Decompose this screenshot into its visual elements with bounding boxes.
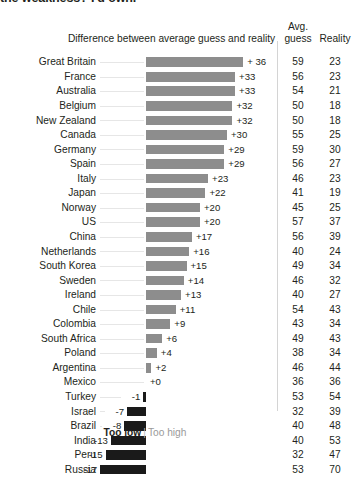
bar-value-label: -7 — [0, 406, 124, 417]
chart-row: South Korea+154934 — [0, 259, 356, 274]
chart-row: Australia+335421 — [0, 84, 356, 99]
country-label: Mexico — [0, 376, 96, 387]
reality-value: 23 — [317, 71, 353, 82]
reality-value: 44 — [317, 362, 353, 373]
avg-guess-value: 49 — [281, 333, 315, 344]
avg-guess-value: 59 — [281, 56, 315, 67]
avg-guess-value: 56 — [281, 158, 315, 169]
chart-row: Great Britain+ 365923 — [0, 55, 356, 70]
bar-value-label: +13 — [185, 289, 201, 300]
chart-row: China+175639 — [0, 230, 356, 245]
chart-bar — [146, 334, 162, 344]
chart-bar — [146, 145, 224, 155]
legend-too-low: Too low — [104, 427, 142, 438]
reality-value: 43 — [317, 333, 353, 344]
reality-value: 25 — [317, 129, 353, 140]
reality-value: 39 — [317, 231, 353, 242]
leader-line — [100, 310, 144, 311]
reality-value: 32 — [317, 275, 353, 286]
country-label: Chile — [0, 304, 96, 315]
avg-guess-value: 53 — [281, 464, 315, 475]
chart-bar — [146, 130, 227, 140]
avg-guess-value: 54 — [281, 85, 315, 96]
chart-row: Norway+204525 — [0, 201, 356, 216]
chart-row: Mexico+03636 — [0, 375, 356, 390]
leader-line — [100, 368, 144, 369]
chart-bar — [146, 290, 181, 300]
bar-value-label: +2 — [155, 362, 166, 373]
legend-too-high: Too high — [148, 427, 187, 438]
leader-line — [100, 339, 144, 340]
avg-guess-value: 45 — [281, 202, 315, 213]
chart-row: Sweden+144632 — [0, 273, 356, 288]
country-label: Netherlands — [0, 246, 96, 257]
bar-value-label: -1 — [0, 391, 140, 402]
chart-bar — [146, 86, 235, 96]
chart-bar — [146, 232, 192, 242]
leader-line — [100, 353, 144, 354]
chart-bar — [146, 217, 200, 227]
bar-value-label: +4 — [161, 347, 172, 358]
country-label: Colombia — [0, 318, 96, 329]
chart-row: Colombia+94334 — [0, 317, 356, 332]
chart-row: US+205737 — [0, 215, 356, 230]
difference-column-header: Difference between average guess and rea… — [68, 33, 273, 44]
chart-bar — [146, 116, 232, 126]
leader-line — [100, 62, 144, 63]
chart-bar — [146, 348, 157, 358]
avg-guess-value: 50 — [281, 115, 315, 126]
country-label: US — [0, 216, 96, 227]
avg-guess-value: 32 — [281, 406, 315, 417]
reality-value: 30 — [317, 144, 353, 155]
avg-guess-value: 40 — [281, 246, 315, 257]
avg-guess-value: 46 — [281, 275, 315, 286]
bar-value-label: +20 — [204, 202, 220, 213]
avg-guess-value: 46 — [281, 362, 315, 373]
bar-value-label: +6 — [166, 333, 177, 344]
country-label: Canada — [0, 129, 96, 140]
leader-line — [100, 382, 144, 383]
bar-value-label: +32 — [236, 100, 252, 111]
chart-bar — [146, 101, 232, 111]
chart-row: Ireland+134027 — [0, 288, 356, 303]
avg-guess-value: 32 — [281, 449, 315, 460]
reality-value: 36 — [317, 376, 353, 387]
chart-bar — [146, 319, 170, 329]
leader-line — [100, 280, 144, 281]
reality-value: 21 — [317, 85, 353, 96]
chart-bar — [146, 57, 243, 67]
chart-row: France+335623 — [0, 70, 356, 85]
chart-row: Spain+295627 — [0, 157, 356, 172]
avg-guess-value: 57 — [281, 216, 315, 227]
bar-value-label: +30 — [231, 129, 247, 140]
bar-value-label: +11 — [180, 304, 196, 315]
chart-row: Italy+234623 — [0, 171, 356, 186]
reality-value: 53 — [317, 435, 353, 446]
avg-guess-value: 49 — [281, 260, 315, 271]
bar-value-label: +32 — [236, 115, 252, 126]
country-label: Japan — [0, 187, 96, 198]
bar-value-label: +29 — [228, 158, 244, 169]
leader-line — [100, 106, 144, 107]
leader-line — [100, 77, 144, 78]
chart-bar — [127, 407, 146, 417]
avg-guess-column-header-line1: Avg. — [281, 21, 315, 32]
leader-line — [100, 266, 144, 267]
bar-value-label: +0 — [150, 376, 161, 387]
bar-value-label: +16 — [193, 246, 209, 257]
avg-guess-value: 55 — [281, 129, 315, 140]
bar-value-label: +23 — [212, 173, 228, 184]
chart-row: Japan+224119 — [0, 186, 356, 201]
leader-line — [100, 208, 144, 209]
avg-guess-value: 43 — [281, 318, 315, 329]
avg-guess-column-header-line2: guess — [281, 33, 315, 44]
avg-guess-value: 53 — [281, 391, 315, 402]
bar-value-label: +29 — [228, 144, 244, 155]
leader-line — [100, 222, 144, 223]
leader-line — [100, 135, 144, 136]
chart-bar — [146, 305, 176, 315]
chart-row: New Zealand+325018 — [0, 113, 356, 128]
chart-bar — [146, 247, 189, 257]
chart-row: Argentina+24644 — [0, 361, 356, 376]
chart-bar — [146, 174, 208, 184]
